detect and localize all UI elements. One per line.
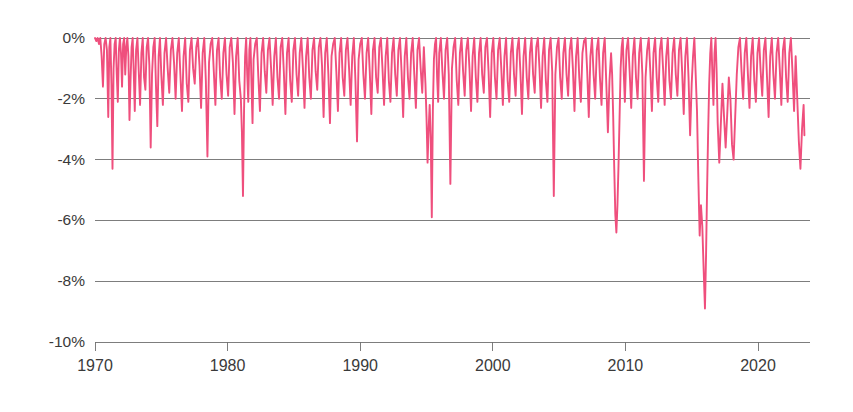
- y-axis-tick-label: -4%: [57, 151, 85, 168]
- y-axis-tick-label: -6%: [57, 211, 85, 228]
- x-axis-tick-label: 2010: [608, 357, 644, 374]
- x-axis-tick-label: 2020: [740, 357, 776, 374]
- series-line-drawdown: [95, 38, 804, 309]
- y-axis-tick-label: 0%: [63, 29, 86, 46]
- y-axis-tick-labels: 0%-2%-4%-6%-8%-10%: [49, 29, 85, 350]
- x-axis-tick-labels: 197019801990200020102020: [77, 357, 776, 374]
- x-axis-tick-label: 1990: [342, 357, 378, 374]
- y-axis-tick-label: -2%: [57, 90, 85, 107]
- drawdown-series-line: [95, 38, 804, 309]
- x-axis-tick-marks: [95, 342, 758, 351]
- chart-canvas: 0%-2%-4%-6%-8%-10% 197019801990200020102…: [0, 0, 853, 412]
- y-axis-tick-label: -8%: [57, 272, 85, 289]
- x-axis-tick-label: 1970: [77, 357, 113, 374]
- y-axis-tick-label: -10%: [49, 333, 85, 350]
- x-axis-tick-label: 2000: [475, 357, 511, 374]
- drawdown-chart: 0%-2%-4%-6%-8%-10% 197019801990200020102…: [0, 0, 853, 412]
- x-axis-tick-label: 1980: [210, 357, 246, 374]
